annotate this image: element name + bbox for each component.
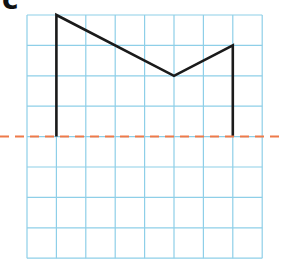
grid-diagram — [0, 0, 286, 264]
